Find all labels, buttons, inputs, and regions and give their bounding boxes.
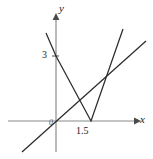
x-tick-label-1-5: 1.5 bbox=[76, 126, 89, 136]
origin-label: 0 bbox=[49, 119, 53, 127]
y-tick-label-3: 3 bbox=[42, 50, 47, 60]
graph-figure: y x 3 1.5 0 bbox=[0, 0, 153, 159]
y-axis-arrowhead bbox=[53, 13, 60, 20]
y-axis-label: y bbox=[59, 3, 64, 14]
absolute-value-curve bbox=[46, 29, 123, 121]
x-axis-label: x bbox=[140, 114, 145, 125]
